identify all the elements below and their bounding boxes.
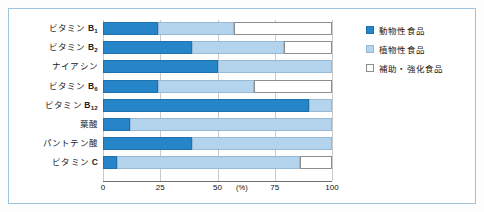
x-tick-label: 100 xyxy=(325,183,338,192)
bar-segment xyxy=(300,156,332,169)
bar-segment xyxy=(103,118,130,131)
bar-segment xyxy=(103,137,192,150)
legend-swatch-icon xyxy=(366,45,374,53)
legend-label: 植物性食品 xyxy=(379,43,425,55)
category-label: パントテン酸 xyxy=(0,136,98,150)
bar-segment xyxy=(192,137,332,150)
x-axis-line xyxy=(103,181,332,182)
bar-segment xyxy=(103,60,218,73)
legend-swatch-icon xyxy=(366,26,374,34)
bar-segment xyxy=(103,41,192,54)
legend-item: 補助・強化食品 xyxy=(366,62,476,74)
bar-segment xyxy=(309,99,332,112)
bar-row: ビタミン C xyxy=(0,154,484,173)
category-label: 葉酸 xyxy=(0,117,98,131)
bar-segment xyxy=(103,80,158,93)
bar-segment xyxy=(284,41,332,54)
x-tick-label: 50 xyxy=(213,183,222,192)
bar-segment xyxy=(103,22,158,35)
bar-segment xyxy=(117,156,300,169)
bar-segment xyxy=(103,156,117,169)
x-tick-label: 75 xyxy=(270,183,279,192)
bar-row: パントテン酸 xyxy=(0,135,484,154)
legend-label: 動物性食品 xyxy=(379,24,425,36)
x-tick-label: 0 xyxy=(101,183,105,192)
bar-segment xyxy=(218,60,333,73)
bar-segment xyxy=(234,22,332,35)
bar-row: 葉酸 xyxy=(0,116,484,135)
x-tick-label: 25 xyxy=(156,183,165,192)
bar-segment xyxy=(254,80,332,93)
category-label: ビタミン B12 xyxy=(0,98,98,113)
category-label: ビタミン C xyxy=(0,155,98,169)
chart-figure: ビタミン B1ビタミン B2ナイアシンビタミン B6ビタミン B12葉酸パントテ… xyxy=(0,0,484,212)
chart-legend: 動物性食品植物性食品補助・強化食品 xyxy=(366,24,476,81)
bar-segment xyxy=(158,22,234,35)
bar-row: ビタミン B12 xyxy=(0,97,484,116)
category-label: ナイアシン xyxy=(0,59,98,73)
bar-segment xyxy=(192,41,284,54)
bar-segment xyxy=(158,80,254,93)
legend-swatch-icon xyxy=(366,64,374,72)
legend-item: 動物性食品 xyxy=(366,24,476,36)
legend-item: 植物性食品 xyxy=(366,43,476,55)
x-axis-ticks: 0255075100 xyxy=(103,183,332,197)
bar-segment xyxy=(103,99,309,112)
bar-segment xyxy=(130,118,332,131)
x-axis-unit-label: (%) xyxy=(236,183,248,192)
category-label: ビタミン B6 xyxy=(0,79,98,94)
category-label: ビタミン B2 xyxy=(0,40,98,55)
category-label: ビタミン B1 xyxy=(0,21,98,36)
legend-label: 補助・強化食品 xyxy=(379,62,443,74)
